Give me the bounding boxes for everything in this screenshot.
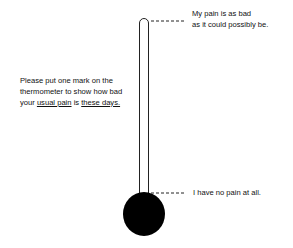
top-anchor-label: My pain is as bad as it could possibly b…: [192, 8, 268, 30]
instruction-mid: is: [72, 98, 82, 107]
instruction-prefix: your: [20, 98, 37, 107]
instruction-line-2: thermometer to show how bad: [20, 86, 122, 97]
top-anchor-line-1: My pain is as bad: [192, 8, 268, 19]
instruction-text: Please put one mark on the thermometer t…: [20, 75, 122, 108]
pain-thermometer[interactable]: [0, 0, 293, 248]
thermometer-tube[interactable]: [140, 19, 149, 197]
top-anchor-line-2: as it could possibly be.: [192, 19, 268, 30]
thermometer-bulb: [123, 192, 165, 236]
bottom-anchor-label: I have no pain at all.: [193, 187, 261, 198]
instruction-line-3: your usual pain is these days.: [20, 97, 122, 108]
instruction-line-1: Please put one mark on the: [20, 75, 122, 86]
emphasis-usual-pain: usual pain: [37, 98, 72, 107]
emphasis-these-days: these days.: [81, 98, 120, 107]
